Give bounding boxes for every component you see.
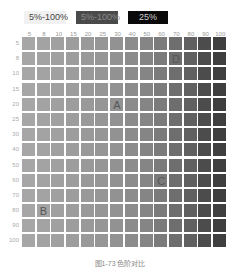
legend-badge-mid: 5%-100% (76, 11, 118, 24)
swatch-cell (125, 98, 138, 111)
swatch-cell (22, 143, 35, 156)
swatch-cell (140, 128, 153, 141)
swatch-cell (51, 113, 64, 126)
swatch-cell (198, 52, 211, 65)
swatch-cell (95, 234, 108, 247)
swatch-cell (37, 174, 50, 187)
swatch-cell (169, 189, 182, 202)
swatch-cell (110, 174, 123, 187)
swatch-cell (184, 204, 197, 217)
swatch-cell (37, 83, 50, 96)
swatch-cell (213, 128, 226, 141)
swatch-cell (81, 37, 94, 50)
swatch-cell (198, 159, 211, 172)
swatch-cell (22, 98, 35, 111)
swatch-cell (154, 159, 167, 172)
swatch-cell (154, 98, 167, 111)
swatch-cell (81, 159, 94, 172)
swatch-cell (51, 174, 64, 187)
swatch-cell (213, 219, 226, 232)
swatch-cell (140, 143, 153, 156)
swatch-cell (125, 113, 138, 126)
swatch-cell (110, 219, 123, 232)
row-header: 8 (0, 52, 21, 67)
swatch-cell (169, 159, 182, 172)
swatch-cell (154, 113, 167, 126)
row-headers: 581015202530405060708090100 (0, 37, 21, 250)
swatch-cell (125, 128, 138, 141)
swatch-cell (110, 159, 123, 172)
swatch-cell (110, 67, 123, 80)
row-header: 70 (0, 189, 21, 204)
swatch-cell (95, 37, 108, 50)
swatch-cell (213, 52, 226, 65)
swatch-cell (184, 159, 197, 172)
swatch-cell (66, 52, 79, 65)
swatch-cell (140, 113, 153, 126)
swatch-cell (81, 67, 94, 80)
swatch-cell (95, 83, 108, 96)
swatch-cell (213, 143, 226, 156)
swatch-cell (51, 52, 64, 65)
swatch-cell (81, 52, 94, 65)
swatch-cell (37, 189, 50, 202)
swatch-cell (22, 234, 35, 247)
swatch-cell (169, 83, 182, 96)
swatch-cell (95, 52, 108, 65)
row-header: 50 (0, 159, 21, 174)
swatch-cell (66, 204, 79, 217)
swatch-cell (66, 219, 79, 232)
swatch-cell (213, 98, 226, 111)
swatch-cell (81, 113, 94, 126)
swatch-cell (184, 143, 197, 156)
swatch-cell (110, 83, 123, 96)
swatch-cell (140, 83, 153, 96)
swatch-cell (154, 143, 167, 156)
swatch-cell (140, 234, 153, 247)
row-header: 40 (0, 143, 21, 158)
swatch-cell (125, 83, 138, 96)
swatch-cell (125, 204, 138, 217)
swatch-cell (213, 113, 226, 126)
swatch-cell (140, 204, 153, 217)
swatch-cell (110, 128, 123, 141)
swatch-cell (22, 37, 35, 50)
swatch-cell (51, 204, 64, 217)
swatch-cell (169, 67, 182, 80)
swatch-cell (22, 204, 35, 217)
swatch-grid (22, 37, 226, 247)
swatch-cell (66, 113, 79, 126)
swatch-cell (51, 159, 64, 172)
swatch-cell (125, 37, 138, 50)
row-header: 20 (0, 98, 21, 113)
swatch-cell (198, 189, 211, 202)
swatch-cell (169, 143, 182, 156)
swatch-cell (125, 219, 138, 232)
swatch-cell (37, 159, 50, 172)
swatch-cell (95, 174, 108, 187)
swatch-cell (110, 113, 123, 126)
swatch-cell (140, 37, 153, 50)
swatch-cell (110, 143, 123, 156)
swatch-cell (154, 204, 167, 217)
row-header: 100 (0, 234, 21, 249)
swatch-cell (22, 219, 35, 232)
swatch-cell (154, 234, 167, 247)
swatch-cell (154, 37, 167, 50)
swatch-cell (22, 174, 35, 187)
swatch-cell (81, 143, 94, 156)
swatch-cell (140, 219, 153, 232)
swatch-cell (95, 128, 108, 141)
row-header: 90 (0, 219, 21, 234)
swatch-cell (37, 37, 50, 50)
swatch-cell (51, 234, 64, 247)
swatch-cell (37, 113, 50, 126)
swatch-cell (37, 128, 50, 141)
swatch-cell (198, 98, 211, 111)
marker-label: C (157, 175, 165, 187)
swatch-cell (37, 219, 50, 232)
swatch-cell (184, 219, 197, 232)
swatch-cell (51, 189, 64, 202)
swatch-cell (37, 67, 50, 80)
swatch-cell (169, 219, 182, 232)
